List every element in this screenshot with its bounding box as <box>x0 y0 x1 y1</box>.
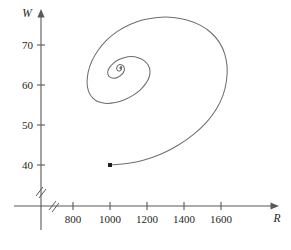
y-tick-label-40: 40 <box>22 159 34 171</box>
x-tick-label-1600: 1600 <box>210 213 233 225</box>
y-axis-title: W <box>22 7 33 19</box>
y-axis-arrow-icon <box>37 9 44 18</box>
x-tick-label-1200: 1200 <box>136 213 159 225</box>
y-tick-label-50: 50 <box>22 119 34 131</box>
y-tick-label-70: 70 <box>22 39 34 51</box>
start-point-marker <box>108 163 112 167</box>
x-tick-label-1000: 1000 <box>99 213 122 225</box>
x-tick-label-1400: 1400 <box>173 213 196 225</box>
phase-plane-figure: W 70 60 50 40 R <box>0 0 291 250</box>
y-tick-label-60: 60 <box>22 79 34 91</box>
y-axis-group: W 70 60 50 40 <box>22 7 46 230</box>
x-axis-group: R 800 1000 1200 1400 1600 <box>14 201 281 225</box>
x-tick-label-800: 800 <box>65 213 82 225</box>
phase-plane-chart: W 70 60 50 40 R <box>0 0 291 250</box>
x-axis-title: R <box>272 212 280 224</box>
x-axis-arrow-icon <box>271 202 280 209</box>
phase-trajectory-curve <box>87 17 227 165</box>
